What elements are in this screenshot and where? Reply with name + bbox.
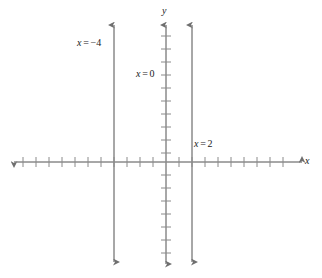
- graph-canvas: [0, 0, 322, 278]
- y-axis-label: y: [162, 5, 166, 16]
- y-axis-group: [161, 25, 171, 264]
- x-axis-label: x: [305, 155, 309, 166]
- label-x-neg4-variable: x: [77, 37, 82, 48]
- label-x-0-value: 0: [149, 68, 154, 79]
- coordinate-plane-figure: x=−4 x=0 x=2 y x: [0, 0, 322, 278]
- label-x-equals-2: x=2: [194, 138, 213, 149]
- x-axis-group: [14, 157, 302, 167]
- label-x-2-variable: x: [194, 138, 199, 149]
- label-x-equals-0: x=0: [136, 68, 155, 79]
- label-x-neg4-value: −4: [90, 37, 101, 48]
- x-axis-ticks: [23, 157, 283, 167]
- label-x-0-variable: x: [136, 68, 141, 79]
- label-x-equals-neg4: x=−4: [77, 37, 102, 48]
- label-x-2-value: 2: [207, 138, 212, 149]
